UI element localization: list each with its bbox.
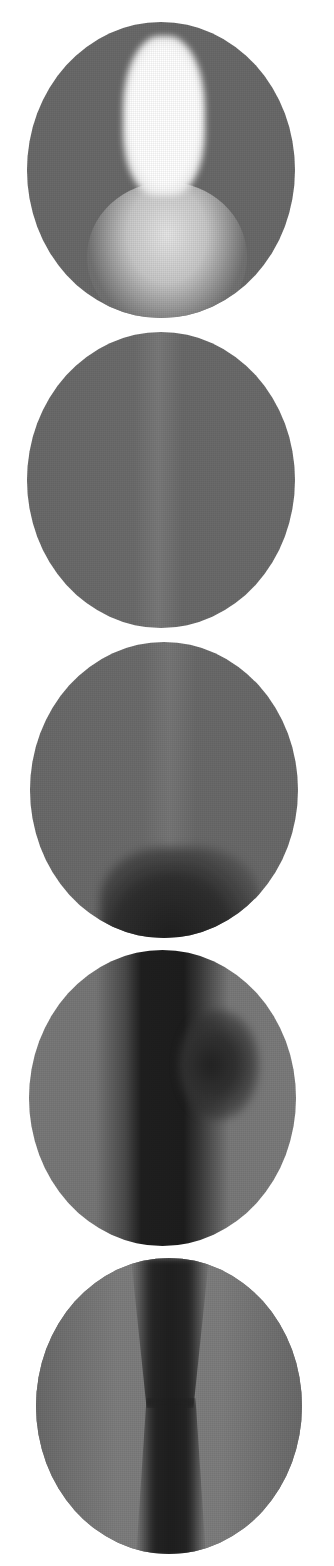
grain-overlay bbox=[36, 1258, 302, 1554]
image-panel-4 bbox=[29, 950, 296, 1246]
image-panel-3 bbox=[30, 642, 298, 938]
grain-overlay bbox=[27, 332, 295, 628]
grain-overlay bbox=[30, 642, 298, 938]
image-panel-5 bbox=[36, 1258, 302, 1554]
image-panel-1 bbox=[27, 22, 295, 318]
image-panel-2 bbox=[27, 332, 295, 628]
grain-overlay bbox=[27, 22, 295, 318]
grain-overlay bbox=[29, 950, 296, 1246]
